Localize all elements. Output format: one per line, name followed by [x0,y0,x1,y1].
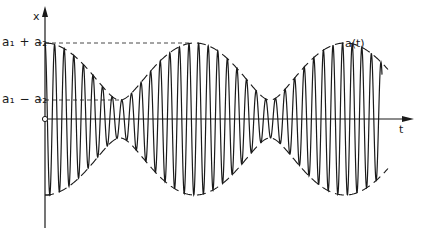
beat-signal-diagram [0,0,422,239]
envelope-label: a(t) [345,38,365,49]
t-axis-label: t [399,124,403,135]
t-axis-arrow-icon [402,116,414,122]
min-amplitude-label: a₁ − a₂ [2,93,48,105]
y-axis-label: x [33,11,40,22]
y-axis-arrow-icon [42,6,48,17]
origin-marker-icon [42,116,47,121]
dashed-level-lines [38,43,190,100]
max-amplitude-label: a₁ + a₂ [2,36,48,48]
